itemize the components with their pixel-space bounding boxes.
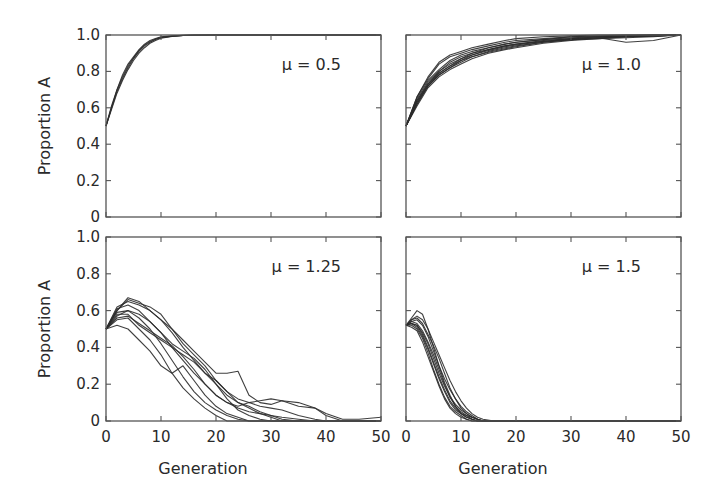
trajectories xyxy=(106,35,381,126)
panel-mu-1-5: 01020304050μ = 1.5 xyxy=(401,237,690,446)
y-axis-label-top: Proportion A xyxy=(35,77,54,176)
y-axis-label-bottom: Proportion A xyxy=(35,280,54,379)
x-tick-label: 40 xyxy=(616,428,635,446)
trajectory-line xyxy=(106,300,381,421)
trajectory-line xyxy=(106,35,381,126)
trajectory-line xyxy=(406,318,681,421)
x-tick-label: 30 xyxy=(561,428,580,446)
trajectory-line xyxy=(406,35,681,126)
y-tick-label: 0.6 xyxy=(76,302,100,320)
mu-annotation: μ = 1.25 xyxy=(272,257,341,276)
y-tick-label: 0 xyxy=(90,412,100,430)
y-tick-label: 1.0 xyxy=(76,228,100,246)
trajectory-line xyxy=(106,325,381,421)
x-tick-label: 0 xyxy=(401,428,411,446)
panel-mu-1-0: μ = 1.0 xyxy=(406,35,681,217)
y-tick-label: 0.6 xyxy=(76,99,100,117)
y-tick-label: 0 xyxy=(90,208,100,226)
x-tick-label: 50 xyxy=(671,428,690,446)
trajectory-line xyxy=(406,316,681,421)
trajectory-line xyxy=(406,35,681,126)
trajectory-line xyxy=(406,324,681,422)
y-tick-label: 0.4 xyxy=(76,338,100,356)
trajectory-line xyxy=(406,35,681,126)
trajectory-line xyxy=(406,322,681,421)
x-tick-label: 10 xyxy=(451,428,470,446)
trajectory-line xyxy=(406,35,681,126)
x-tick-label: 10 xyxy=(151,428,170,446)
y-tick-label: 0.2 xyxy=(76,172,100,190)
panel-mu-0-5: 00.20.40.60.81.0μ = 0.5 xyxy=(76,26,381,226)
trajectories xyxy=(406,311,681,421)
trajectory-line xyxy=(106,305,381,421)
trajectory-line xyxy=(406,35,681,126)
x-tick-label: 30 xyxy=(261,428,280,446)
figure: 00.20.40.60.81.0μ = 0.5 μ = 1.0 00.20.40… xyxy=(0,0,719,502)
x-tick-label: 20 xyxy=(506,428,525,446)
trajectory-line xyxy=(406,324,681,422)
panel-mu-1-25: 00.20.40.60.81.001020304050μ = 1.25 xyxy=(76,228,390,446)
trajectory-line xyxy=(406,35,681,126)
trajectory-line xyxy=(406,324,681,422)
x-tick-label: 40 xyxy=(316,428,335,446)
trajectory-line xyxy=(106,35,381,126)
mu-annotation: μ = 1.0 xyxy=(582,55,641,74)
y-tick-label: 1.0 xyxy=(76,26,100,44)
mu-annotation: μ = 0.5 xyxy=(282,55,341,74)
trajectory-line xyxy=(406,320,681,421)
x-tick-label: 0 xyxy=(101,428,111,446)
mu-annotation: μ = 1.5 xyxy=(582,257,641,276)
trajectory-line xyxy=(106,35,381,126)
x-axis-label-right: Generation xyxy=(458,459,547,478)
trajectory-line xyxy=(406,35,681,126)
trajectory-line xyxy=(106,314,381,421)
y-tick-label: 0.8 xyxy=(76,265,100,283)
trajectory-line xyxy=(406,35,681,126)
x-tick-label: 50 xyxy=(371,428,390,446)
y-tick-label: 0.2 xyxy=(76,375,100,393)
trajectory-line xyxy=(406,35,681,126)
trajectory-line xyxy=(406,35,681,126)
chart-canvas: 00.20.40.60.81.0μ = 0.5 μ = 1.0 00.20.40… xyxy=(0,0,719,502)
y-tick-label: 0.4 xyxy=(76,135,100,153)
x-tick-label: 20 xyxy=(206,428,225,446)
trajectory-line xyxy=(106,35,381,126)
trajectories xyxy=(106,298,381,421)
trajectories xyxy=(406,35,681,126)
y-tick-label: 0.8 xyxy=(76,62,100,80)
x-axis-label-left: Generation xyxy=(158,459,247,478)
